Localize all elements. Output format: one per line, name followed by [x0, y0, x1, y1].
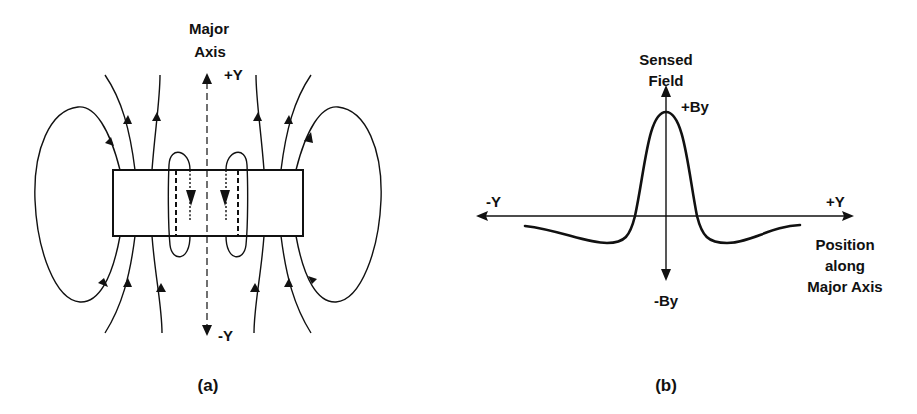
field-arrows-left: [98, 112, 166, 292]
position-label-3: Major Axis: [807, 278, 882, 295]
magnet-bar: [113, 170, 303, 236]
position-label-1: Position: [815, 236, 874, 253]
minus-y-label: -Y: [218, 327, 233, 344]
axis-arrow-up-icon: [202, 73, 212, 84]
plus-y-axis-label: +Y: [826, 193, 845, 210]
axis-arrow-down-icon: [202, 325, 212, 336]
field-lines-right: [254, 75, 381, 333]
inner-loop-right: [220, 152, 248, 257]
caption-a: (a): [198, 376, 219, 395]
plus-y-label: +Y: [224, 66, 243, 83]
field-arrows-right: [250, 112, 317, 292]
inner-loop-left: [168, 152, 196, 257]
minus-by-label: -By: [654, 292, 679, 309]
caption-b: (b): [655, 376, 677, 395]
plus-by-label: +By: [681, 98, 710, 115]
sensed-field-label-1: Sensed: [639, 51, 692, 68]
panel-b: Sensed Field +By -By -Y +Y Position alon…: [476, 51, 883, 395]
field-lines-left: [35, 75, 162, 333]
y-axis-arrow-down-icon: [661, 269, 671, 281]
sensed-field-label-2: Field: [648, 72, 683, 89]
panel-a: Major Axis +Y -Y: [35, 20, 381, 395]
figure: Major Axis +Y -Y: [0, 0, 917, 414]
position-label-2: along: [825, 257, 865, 274]
major-axis-label-1: Major: [189, 20, 229, 37]
minus-y-axis-label: -Y: [486, 193, 501, 210]
major-axis-label-2: Axis: [194, 43, 226, 60]
sensed-field-curve: [525, 112, 800, 243]
